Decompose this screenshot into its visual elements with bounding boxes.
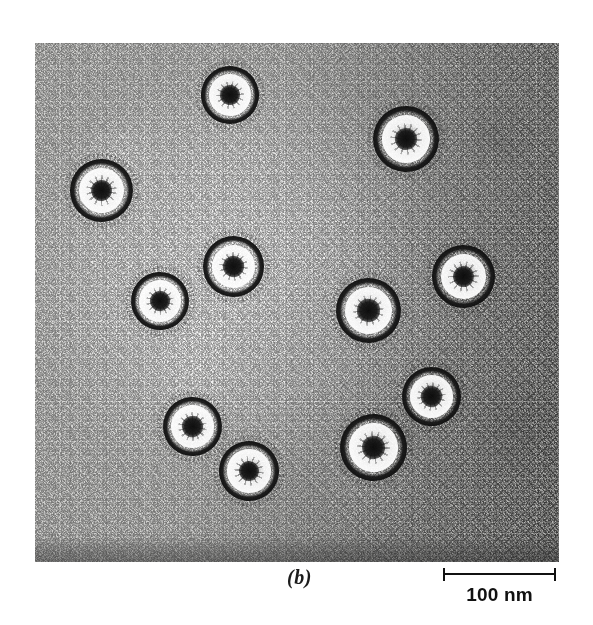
panel-label: (b) [287,566,312,589]
particle-core [390,123,422,155]
particle-core [218,83,241,106]
particle-core [89,178,114,203]
electron-micrograph-image [35,43,559,562]
virus-particle [215,437,283,505]
scale-bar-label: 100 nm [443,584,556,606]
figure-panel: (b) 100 nm [0,0,593,625]
particle-core [179,413,206,440]
scale-bar [443,568,556,580]
particle-core [355,297,380,322]
micrograph-bottom-smear [35,536,559,562]
scale-bar-right-cap [554,568,556,581]
particle-core [237,459,260,482]
particle-core [359,433,388,462]
virus-particle [331,273,405,347]
virus-particle [65,154,138,227]
particle-core [417,382,445,410]
particle-core [449,262,477,290]
particle-core [146,287,174,315]
particle-core [219,252,246,279]
virus-particle [196,61,265,130]
scale-bar-rule [443,573,556,575]
